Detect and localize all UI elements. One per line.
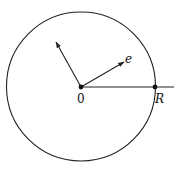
origin-label: 0 (77, 92, 85, 106)
vector-other-arrow (56, 42, 81, 87)
vector-e-label: e (125, 52, 132, 66)
point-R-label: R (154, 92, 164, 106)
point-R (153, 85, 158, 90)
vector-e-arrow (81, 62, 124, 87)
origin-point (79, 85, 84, 90)
diagram-canvas: 0 R e (0, 0, 183, 170)
